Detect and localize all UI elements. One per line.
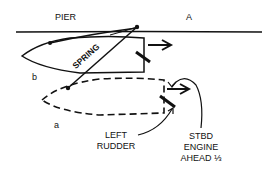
pier-line	[16, 32, 262, 33]
boat-b-rudder	[136, 52, 150, 62]
position-a-label: a	[54, 121, 59, 130]
boat-a-hull	[42, 78, 164, 115]
left-rudder-line1: LEFT	[96, 131, 136, 140]
engine-line1: STBD	[176, 132, 226, 141]
maneuver-diagram	[0, 0, 278, 176]
pier-label: PIER	[55, 13, 76, 22]
boat-a-rudder	[160, 96, 175, 107]
engine-line2: ENGINE	[176, 143, 226, 152]
point-a-label: A	[186, 13, 192, 22]
left-rudder-line2: RUDDER	[96, 142, 136, 151]
engine-label: STBD ENGINE AHEAD ⅓	[176, 132, 226, 163]
engine-line3: AHEAD ⅓	[176, 154, 226, 163]
engine-pointer	[172, 79, 202, 128]
boat-a-cleat	[66, 86, 70, 90]
position-b-label: b	[32, 73, 37, 82]
engine-pointer-head	[168, 82, 176, 87]
left-rudder-label: LEFT RUDDER	[96, 131, 136, 151]
diagram-canvas: PIER A SPRING b a LEFT RUDDER STBD ENGIN…	[0, 0, 278, 176]
